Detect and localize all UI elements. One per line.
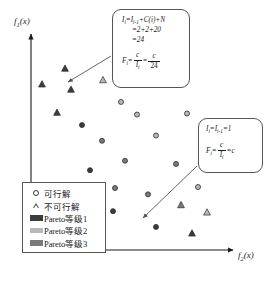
data-point xyxy=(154,224,159,229)
legend-item-pareto-rank-3: Pareto等级3 xyxy=(23,237,105,249)
data-point xyxy=(80,123,85,128)
triangle-icon xyxy=(28,203,44,208)
swatch-icon xyxy=(28,240,44,246)
data-point xyxy=(185,111,190,116)
chart-legend: 可行解 不可行解 Pareto等级1 Pareto等级2 Pareto等级3 xyxy=(22,182,106,253)
fraction-c-over-Ii: cIi xyxy=(217,142,227,160)
data-point xyxy=(68,86,75,92)
data-point xyxy=(189,230,196,236)
data-point xyxy=(196,185,201,190)
legend-item-feasible: 可行解 xyxy=(23,187,105,199)
callout1-line4: Fi=cIi=c24 xyxy=(122,52,184,70)
swatch-icon xyxy=(28,228,44,234)
data-point xyxy=(123,158,128,163)
data-point xyxy=(100,77,107,83)
legend-item-label: 可行解 xyxy=(44,187,71,199)
data-point xyxy=(204,209,211,215)
data-point xyxy=(178,201,185,207)
data-point xyxy=(88,168,93,173)
callout1-line2: =2+2+20 xyxy=(122,26,184,36)
data-point xyxy=(113,186,118,191)
legend-item-infeasible: 不可行解 xyxy=(23,199,105,211)
legend-item-pareto-rank-2: Pareto等级2 xyxy=(23,224,105,236)
legend-item-label: Pareto等级1 xyxy=(44,212,87,224)
circle-icon xyxy=(28,190,44,196)
legend-item-pareto-rank-1: Pareto等级1 xyxy=(23,212,105,224)
legend-item-label: Pareto等级3 xyxy=(44,237,87,249)
data-point xyxy=(54,109,61,115)
fraction-c-over-Ii: cIi xyxy=(133,52,143,70)
callout2-line2: Fi=cIi=c xyxy=(206,142,258,160)
data-point xyxy=(174,161,179,166)
data-point xyxy=(100,138,105,143)
data-point xyxy=(135,112,140,117)
y-axis-label: f1(x) xyxy=(14,16,30,28)
annotation-callout-1: Ii=Ii-1+C(i)+N =2+2+20 =24 Fi=cIi=c24 xyxy=(112,9,190,88)
data-point xyxy=(62,65,69,71)
swatch-icon xyxy=(28,215,44,221)
callout2-line1: Ii=Ii-1=1 xyxy=(206,125,258,135)
figure-scatter-pareto: f1(x) f2(x) Ii=Ii-1+C(i)+N =2+2+20 =24 F… xyxy=(0,0,273,282)
callout1-line1: Ii=Ii-1+C(i)+N xyxy=(122,16,184,26)
legend-item-label: 不可行解 xyxy=(44,200,80,212)
data-point xyxy=(146,192,151,197)
legend-item-label: Pareto等级2 xyxy=(44,224,87,236)
annotation-callout-2: Ii=Ii-1=1 Fi=cIi=c xyxy=(198,118,263,173)
fraction-c-over-24: c24 xyxy=(147,53,160,70)
data-point xyxy=(154,133,159,138)
data-point xyxy=(39,81,46,87)
callout1-line3: =24 xyxy=(122,36,184,46)
x-axis-label: f2(x) xyxy=(238,250,254,262)
data-point xyxy=(119,99,124,104)
data-point xyxy=(111,209,116,214)
